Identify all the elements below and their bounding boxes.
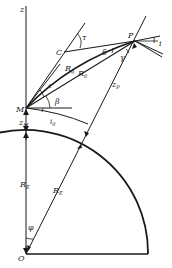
label-c: C [56, 48, 62, 57]
label-delta: δ [102, 48, 107, 57]
label-phi: φ [28, 223, 34, 232]
label-o: O [18, 254, 25, 263]
zp-arrow-up [132, 43, 137, 49]
phi-arc [26, 238, 33, 239]
refraction-geometry-diagram: z C τ P i Rg δ γ R0 ε zP M β i0 zM RE RE… [0, 0, 172, 268]
beta-arc [46, 96, 50, 108]
label-i0: i0 [50, 118, 56, 127]
line-cp [64, 41, 135, 52]
label-z: z [19, 5, 25, 14]
label-zp: zP [111, 80, 120, 90]
tangent-line-mc [26, 23, 85, 108]
tangent-at-p [135, 36, 160, 41]
label-m: M [15, 105, 25, 114]
label-i: i [159, 39, 162, 48]
tau-arc [77, 33, 81, 48]
label-beta: β [54, 97, 60, 106]
label-epsilon: ε [48, 82, 52, 90]
ray-continuation-2 [135, 41, 162, 57]
label-gamma: γ [120, 53, 125, 62]
label-re-left: RE [19, 180, 30, 190]
i0-curve [26, 108, 88, 124]
zp-arrow-down [84, 131, 89, 137]
label-re-right: RE [52, 186, 63, 196]
earth-surface-arc [0, 130, 148, 254]
label-p: P [127, 31, 134, 40]
label-rg: Rg [64, 64, 74, 75]
label-zm: zM [18, 118, 29, 128]
label-tau: τ [82, 33, 87, 42]
